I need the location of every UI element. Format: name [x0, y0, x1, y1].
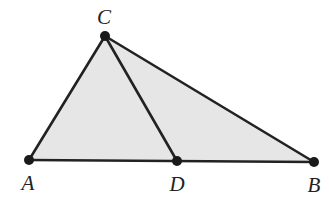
- point-d: [172, 156, 182, 166]
- point-a: [24, 155, 34, 165]
- point-b: [309, 157, 319, 167]
- triangle-diagram: [0, 0, 329, 205]
- label-point-c: C: [97, 7, 111, 28]
- label-point-a: A: [22, 173, 35, 194]
- point-c: [100, 31, 110, 41]
- label-point-d: D: [169, 174, 184, 195]
- triangle-abc-fill: [29, 36, 314, 162]
- label-point-b: B: [308, 175, 321, 196]
